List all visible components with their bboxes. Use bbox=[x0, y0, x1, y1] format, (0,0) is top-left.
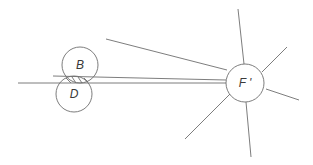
connection-line bbox=[106, 39, 227, 70]
connection-line bbox=[246, 102, 251, 157]
nodes: BDF ' bbox=[56, 47, 264, 112]
node-label: F ' bbox=[239, 76, 252, 90]
node-label: B bbox=[76, 58, 84, 72]
network-diagram: BDF ' bbox=[0, 0, 313, 165]
node-d: D bbox=[56, 76, 92, 112]
connection-line bbox=[238, 9, 244, 64]
node-f: F ' bbox=[226, 64, 264, 102]
node-label: D bbox=[70, 87, 79, 101]
connection-line bbox=[266, 89, 299, 100]
connection-line bbox=[262, 47, 287, 72]
connection-line bbox=[185, 94, 230, 139]
